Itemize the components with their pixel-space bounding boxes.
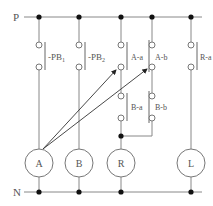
load-r-label: R [118,158,125,169]
a-b-terminal-top [149,42,155,48]
load-a-label: A [35,158,43,169]
pb1-terminal-top [36,42,42,48]
r-a-terminal-bottom [188,64,194,70]
n-junction-4 [188,189,193,194]
a-a-terminal-bottom [118,64,124,70]
a-a-label: A-a [131,53,143,62]
n-junction-1 [36,189,41,194]
pb2-terminal-top [76,42,82,48]
r-a-terminal-top [188,42,194,48]
pb1-label: -PB1 [48,52,65,63]
a-b-terminal-bottom [149,64,155,70]
p-junction-4 [149,14,154,19]
n-junction-2 [76,189,81,194]
p-label: P [13,11,19,23]
b-a-label: B-a [131,103,143,112]
b-b-label: B-b [155,103,167,112]
p-junction-3 [118,14,123,19]
ladder-diagram: P N -PB1 -PB2 A-a A-b B-a B-b R-a A B R … [0,0,213,206]
b-a-terminal-top [118,93,124,99]
p-junction-5 [188,14,193,19]
pb1-terminal-bottom [36,64,42,70]
pb2-terminal-bottom [76,64,82,70]
b-a-terminal-bottom [118,115,124,121]
b-b-terminal-top [149,93,155,99]
p-junction-2 [76,14,81,19]
load-l-label: L [188,158,194,169]
r-junction [118,133,123,138]
pb2-label: -PB2 [88,52,105,63]
b-b-terminal-bottom [149,115,155,121]
load-b-label: B [76,158,83,169]
a-b-label: A-b [155,53,167,62]
n-label: N [13,186,21,198]
p-junction-1 [36,14,41,19]
a-a-terminal-top [118,42,124,48]
n-junction-3 [118,189,123,194]
r-a-label: R-a [200,53,212,62]
